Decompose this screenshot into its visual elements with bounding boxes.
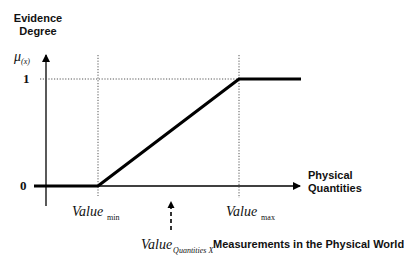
x-axis-title-line1: Physical: [308, 169, 362, 182]
mu-subscript: (x): [21, 57, 30, 66]
y-tick-zero: 0: [20, 178, 27, 194]
membership-curve: [34, 79, 301, 186]
value-min-main: Value: [72, 204, 103, 219]
y-axis-title-line1: Evidence: [10, 12, 66, 25]
y-axis-title-line2: Degree: [10, 25, 66, 38]
value-min-label: Valuemin: [72, 202, 120, 220]
mu-symbol: μ: [14, 49, 21, 64]
y-axis-title: Evidence Degree: [10, 12, 66, 38]
measurements-label: Measurements in the Physical World: [213, 238, 404, 250]
value-max-sub: max: [261, 213, 275, 222]
y-axis-symbol: μ(x): [14, 47, 30, 65]
value-min-sub: min: [107, 213, 119, 222]
x-axis-title-line2: Quantities: [308, 182, 362, 195]
membership-diagram: [0, 0, 404, 264]
value-quantities-main: Value: [141, 237, 172, 252]
value-max-main: Value: [226, 204, 257, 219]
measurement-arrow-head: [168, 201, 175, 208]
value-quantities-sub: Quantities X: [173, 246, 213, 255]
value-quantities-label: ValueQuantities X: [141, 235, 213, 253]
y-tick-one: 1: [23, 71, 30, 87]
x-axis-title: Physical Quantities: [308, 169, 362, 195]
value-max-label: Valuemax: [226, 202, 275, 220]
